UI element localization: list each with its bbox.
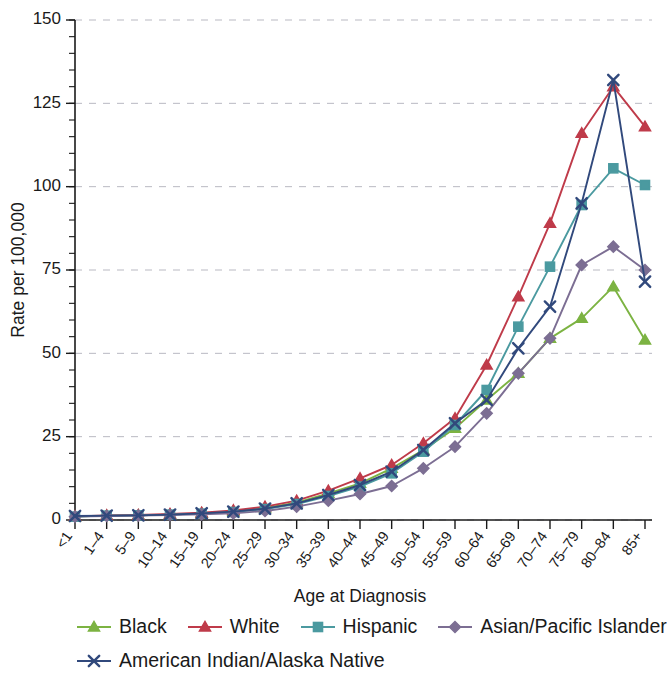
x-tick-label: 75–79 <box>546 529 582 571</box>
y-tick-label: 75 <box>42 259 61 278</box>
line-chart-plot: 0255075100125150 <11–45–910–1415–1920–24… <box>0 0 652 610</box>
x-tick-label: 10–14 <box>134 529 170 571</box>
x-tick-label: 55–59 <box>419 529 455 571</box>
x-tick-label: 15–19 <box>166 529 202 571</box>
data-point-marker <box>418 463 429 474</box>
series-line <box>75 80 645 516</box>
legend-item-label: Asian/Pacific Islander <box>480 617 666 637</box>
data-point-marker <box>481 359 492 369</box>
x-tick-label: 45–49 <box>356 529 392 571</box>
legend-row-secondary: American Indian/Alaska Native <box>0 644 652 678</box>
y-tick-label: 25 <box>42 426 61 445</box>
series-hispanic <box>70 164 649 522</box>
y-major-ticks-group <box>66 20 75 520</box>
legend-row-primary: BlackWhiteHispanicAsian/Pacific Islander <box>0 610 652 644</box>
data-point-marker <box>576 259 587 270</box>
data-point-marker <box>513 343 523 353</box>
data-point-marker <box>609 164 618 173</box>
legend-swatch-square-icon <box>300 618 336 636</box>
legend-item-label: White <box>230 617 280 637</box>
data-point-marker <box>513 291 524 301</box>
data-point-marker <box>639 334 650 344</box>
x-tick-label: 40–44 <box>324 529 360 571</box>
data-point-marker <box>544 218 555 228</box>
x-tick-label: 60–64 <box>451 529 487 571</box>
legend-swatch-triangle-icon <box>76 618 112 636</box>
y-tick-label: 50 <box>42 343 61 362</box>
data-point-marker <box>608 281 619 291</box>
x-tick-labels-group: <11–45–910–1415–1920–2425–2930–3435–3940… <box>53 529 646 571</box>
x-tick-label: 80–84 <box>578 529 614 571</box>
data-point-marker <box>514 322 523 331</box>
data-point-marker <box>386 480 397 491</box>
legend-item[interactable]: Black <box>76 617 167 637</box>
data-point-marker <box>640 180 649 189</box>
x-tick-label: 1–4 <box>80 529 107 558</box>
legend-swatch-x-icon <box>76 652 112 670</box>
x-ticks-group <box>75 520 645 529</box>
x-tick-label: 35–39 <box>293 529 329 571</box>
series-american-indian-alaska-native <box>70 75 650 521</box>
y-axis-title: Rate per 100,000 <box>8 202 28 338</box>
x-tick-label: 5–9 <box>112 529 139 558</box>
y-tick-label: 125 <box>33 93 61 112</box>
legend-swatch-diamond-icon <box>437 618 473 636</box>
x-tick-label: 50–54 <box>388 529 424 571</box>
data-point-marker <box>545 262 554 271</box>
y-tick-label: 100 <box>33 176 61 195</box>
x-tick-label: 20–24 <box>198 529 234 571</box>
series-white <box>69 81 650 520</box>
y-tick-labels-group: 0255075100125150 <box>33 9 61 528</box>
series-line <box>75 87 645 517</box>
legend-item[interactable]: Hispanic <box>300 617 418 637</box>
data-point-marker <box>545 301 555 311</box>
chart-legend: BlackWhiteHispanicAsian/Pacific Islander… <box>0 610 652 678</box>
x-tick-label: 70–74 <box>514 529 550 571</box>
x-tick-label: <1 <box>53 529 76 552</box>
y-tick-label: 150 <box>33 9 61 28</box>
x-axis-title: Age at Diagnosis <box>294 586 427 606</box>
legend-item-label: Black <box>119 617 167 637</box>
series-line <box>75 168 645 516</box>
legend-item[interactable]: American Indian/Alaska Native <box>76 651 385 671</box>
legend-item-label: Hispanic <box>343 617 418 637</box>
legend-swatch-triangle-icon <box>187 618 223 636</box>
legend-item-label: American Indian/Alaska Native <box>119 651 385 671</box>
x-tick-label: 30–34 <box>261 529 297 571</box>
gridlines-group <box>75 20 652 520</box>
x-tick-label: 65–69 <box>483 529 519 571</box>
x-tick-label: 85+ <box>618 529 645 558</box>
data-series-group <box>69 75 650 522</box>
x-tick-label: 25–29 <box>229 529 265 571</box>
legend-item[interactable]: Asian/Pacific Islander <box>437 617 666 637</box>
y-tick-label: 0 <box>52 509 61 528</box>
legend-item[interactable]: White <box>187 617 280 637</box>
